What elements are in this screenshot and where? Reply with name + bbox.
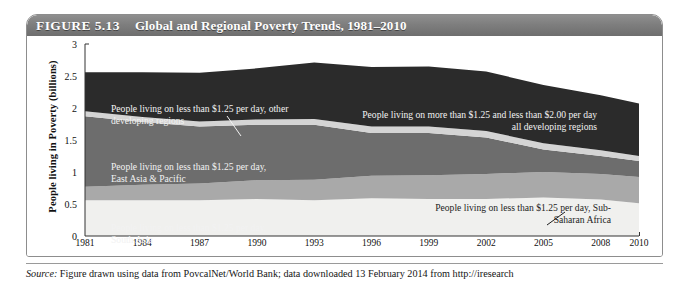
figure-container: FIGURE 5.13 Global and Regional Poverty … (0, 0, 683, 286)
area-band (85, 198, 639, 236)
figure-number: FIGURE 5.13 (36, 18, 120, 34)
figure-title: Global and Regional Poverty Trends, 1981… (135, 18, 407, 34)
figure-title-bar: FIGURE 5.13 Global and Regional Poverty … (27, 15, 662, 36)
source-divider (26, 263, 663, 264)
stacked-area-chart (27, 36, 663, 257)
source-text: Figure drawn using data from PovcalNet/W… (57, 268, 513, 279)
source-label: Source: (26, 268, 57, 279)
figure-frame: FIGURE 5.13 Global and Regional Poverty … (26, 14, 663, 257)
source-note: Source: Figure drawn using data from Pov… (26, 268, 676, 279)
plot-area: People living in Poverty (billions) 00.5… (27, 36, 662, 257)
